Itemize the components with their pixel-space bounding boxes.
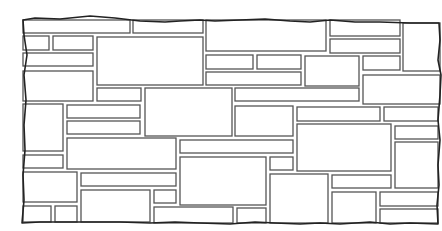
stone-block	[330, 39, 400, 53]
stone-block	[235, 88, 359, 101]
stone-block	[55, 206, 77, 222]
stone-block	[297, 107, 380, 121]
stone-block	[81, 173, 176, 186]
stone-block	[363, 75, 440, 104]
stone-block	[145, 88, 232, 136]
stone-block	[270, 174, 328, 223]
stone-block	[97, 88, 141, 101]
stone-block	[154, 190, 176, 203]
stone-block	[67, 138, 176, 169]
stone-block	[67, 121, 140, 134]
stone-block	[23, 53, 93, 66]
stone-block	[67, 105, 140, 118]
stone-block	[384, 107, 438, 121]
stone-block	[53, 36, 93, 50]
stone-block	[332, 175, 391, 188]
stone-block	[23, 155, 63, 168]
stone-block	[206, 72, 301, 85]
stone-wall-diagram	[0, 0, 442, 231]
stone-block	[235, 106, 293, 136]
stone-block	[23, 206, 51, 222]
stone-block	[23, 172, 77, 202]
stone-block	[395, 142, 438, 188]
stone-block	[363, 56, 400, 70]
stone-block	[237, 208, 266, 223]
stone-block	[23, 71, 93, 101]
stone-block	[180, 157, 266, 205]
stone-block	[23, 20, 130, 33]
stone-block	[23, 104, 63, 151]
stone-block	[270, 157, 293, 170]
stone-block	[23, 36, 49, 50]
stone-block	[206, 55, 253, 69]
stone-block	[395, 126, 438, 139]
stone-block	[154, 207, 233, 223]
stone-block	[332, 192, 376, 223]
stone-block	[297, 124, 391, 171]
stone-block	[97, 37, 203, 85]
stone-block	[206, 20, 326, 51]
stone-block	[380, 209, 438, 223]
stone-block	[81, 190, 150, 222]
stone-block	[180, 140, 293, 153]
stone-block	[380, 192, 438, 206]
stone-block	[257, 55, 301, 69]
stone-block	[305, 56, 359, 86]
stone-block	[403, 23, 440, 71]
